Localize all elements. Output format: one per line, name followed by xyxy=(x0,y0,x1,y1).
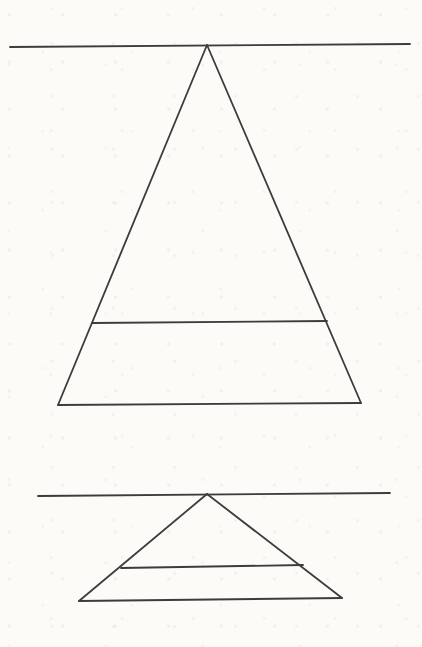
scanned-book-page xyxy=(0,0,422,647)
figure-canvas xyxy=(0,0,422,647)
triangle-right-side xyxy=(207,494,342,598)
triangle-base xyxy=(79,598,342,601)
triangle-right-side xyxy=(207,45,361,403)
triangle-left-side xyxy=(58,45,207,405)
inner-horizontal-line xyxy=(92,321,327,323)
horizon-line xyxy=(38,493,390,496)
triangle-left-side xyxy=(79,494,207,601)
triangle-base xyxy=(58,403,361,405)
lower-triangle-figure xyxy=(38,493,390,601)
horizon-line xyxy=(10,44,410,47)
upper-triangle-figure xyxy=(10,44,410,405)
inner-horizontal-line xyxy=(121,565,303,568)
